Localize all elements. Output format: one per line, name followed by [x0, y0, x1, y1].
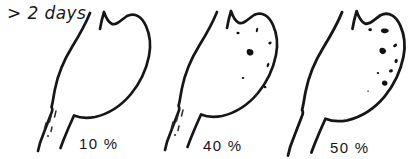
particle: [394, 58, 398, 63]
duration-label: > 2 days: [7, 3, 86, 23]
particle: [255, 28, 258, 33]
particle: [266, 63, 270, 68]
stomach-2-icon: [165, 11, 277, 150]
particle: [392, 43, 397, 48]
retention-percentage-3: 50 %: [330, 139, 369, 156]
particle: [368, 28, 372, 31]
stomach-1-outline: [38, 12, 150, 151]
stomach-2-outline: [165, 11, 277, 150]
particle-blob: [247, 49, 254, 56]
particle-blob: [381, 29, 389, 34]
stomach-1-icon: [38, 12, 150, 151]
particle: [242, 77, 245, 79]
particle-blob: [382, 81, 388, 86]
stomach-3-icon: [288, 11, 405, 156]
particle-faint: [367, 90, 369, 92]
stomach-diagram-canvas: [0, 0, 420, 159]
retention-percentage-1: 10 %: [79, 135, 118, 152]
retention-percentage-2: 40 %: [203, 137, 242, 154]
particle: [268, 41, 272, 45]
particle-blob: [379, 48, 386, 54]
particle: [236, 32, 239, 35]
particle: [389, 69, 394, 73]
particle: [377, 72, 379, 74]
